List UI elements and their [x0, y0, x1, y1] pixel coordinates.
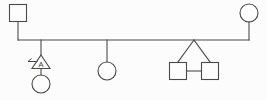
child-2-circle-symbol[interactable] [32, 75, 50, 93]
twin-right-square-symbol[interactable] [202, 63, 219, 80]
twin-right-leg-line [194, 40, 210, 62]
twin-left-square-symbol[interactable] [170, 63, 187, 80]
genogram-canvas: A [0, 0, 267, 100]
pregnancy-triangle-label: A [38, 60, 43, 69]
twin-left-leg-line [178, 40, 194, 62]
genogram-drawing: A [0, 0, 267, 100]
father-square-symbol[interactable] [10, 5, 27, 22]
child-3-circle-symbol[interactable] [98, 62, 116, 80]
mother-circle-symbol[interactable] [240, 4, 258, 22]
